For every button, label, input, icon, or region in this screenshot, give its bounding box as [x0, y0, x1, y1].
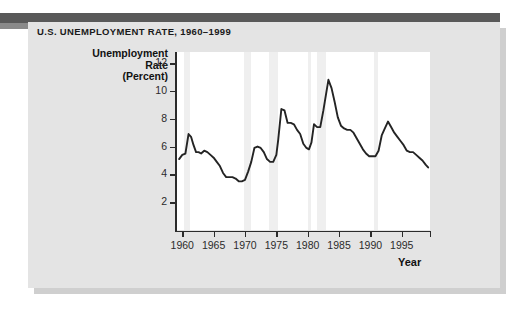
- unemployment-line-series: [176, 52, 430, 230]
- y-tick-mark: [170, 202, 175, 203]
- x-tick-mark: [402, 232, 403, 237]
- x-axis-end-cap: [430, 232, 431, 237]
- figure-title: U.S. UNEMPLOYMENT RATE, 1960–1999: [37, 26, 231, 37]
- y-tick-mark: [170, 174, 175, 175]
- x-tick-mark: [214, 232, 215, 237]
- y-tick-label: 2: [141, 195, 167, 207]
- y-tick-mark: [170, 147, 175, 148]
- panel-shadow-right: [500, 28, 506, 294]
- y-tick-label: 8: [141, 112, 167, 124]
- y-tick-label: 10: [141, 84, 167, 96]
- y-tick-mark: [170, 91, 175, 92]
- y-axis-title-line3: (Percent): [56, 71, 168, 83]
- x-tick-mark: [245, 232, 246, 237]
- x-tick-label: 1995: [382, 239, 422, 251]
- x-tick-mark: [339, 232, 340, 237]
- x-axis-title: Year: [398, 256, 421, 268]
- figure-container: U.S. UNEMPLOYMENT RATE, 1960–1999 Unempl…: [0, 0, 517, 312]
- panel-shadow-bottom: [34, 288, 506, 294]
- x-tick-mark: [276, 232, 277, 237]
- y-tick-mark: [170, 119, 175, 120]
- plot-area: [176, 52, 430, 230]
- y-tick-mark: [170, 63, 175, 64]
- y-tick-label: 12: [141, 56, 167, 68]
- title-bar-shadow: [0, 23, 28, 29]
- x-tick-mark: [308, 232, 309, 237]
- y-tick-label: 4: [141, 167, 167, 179]
- x-tick-mark: [370, 232, 371, 237]
- y-axis-line: [175, 52, 177, 232]
- y-tick-label: 6: [141, 140, 167, 152]
- x-tick-mark: [182, 232, 183, 237]
